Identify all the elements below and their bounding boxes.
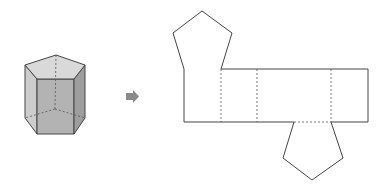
pentagonal-prism: [25, 55, 85, 134]
prism-net: [173, 11, 368, 180]
net-fold-lines: [221, 69, 331, 122]
arrow-right-icon: [126, 90, 139, 103]
prism-top-face: [25, 55, 85, 79]
net-bottom-pentagon-outline: [283, 122, 343, 180]
net-top-pentagon-outline: [173, 11, 232, 122]
diagram-canvas: [0, 0, 387, 193]
net-strip-outline: [221, 69, 368, 122]
